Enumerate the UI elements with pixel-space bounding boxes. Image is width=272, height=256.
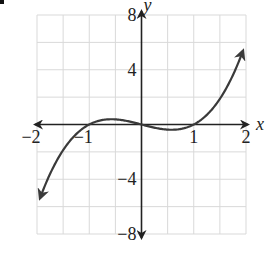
y-axis-label: y [142,0,152,15]
y-tick-label: 4 [128,60,137,80]
curve-right-branch [142,51,243,130]
tick-labels: −2−11284−4−8xy [21,0,264,244]
x-axis-label: x [255,114,264,134]
y-tick-label: 8 [128,5,137,25]
x-tick-label: 1 [189,127,198,147]
function-graph: −2−11284−4−8xy [0,0,272,256]
x-tick-label: −2 [21,127,40,147]
x-tick-label: 2 [242,127,251,147]
x-tick-label: −1 [74,127,93,147]
y-tick-label: −8 [117,224,136,244]
y-tick-label: −4 [117,169,136,189]
